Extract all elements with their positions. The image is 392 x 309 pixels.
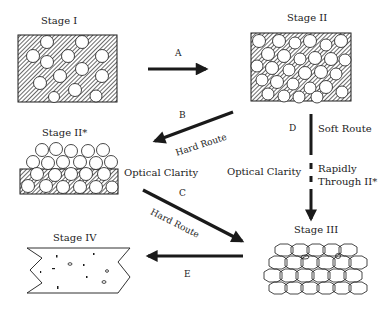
stage1-title: Stage I xyxy=(41,16,77,26)
optical-clarity-center: Optical Clarity xyxy=(227,167,301,177)
stage2-title: Stage II xyxy=(287,13,327,23)
stage4-title: Stage IV xyxy=(53,233,97,243)
arrow-e-label: E xyxy=(184,270,191,279)
stage4-film xyxy=(27,248,130,293)
stage1-box xyxy=(18,35,117,103)
arrow-d-note-line1: Rapidly xyxy=(318,164,357,174)
stage3-title: Stage III xyxy=(294,225,338,235)
stage3-hexgrid xyxy=(264,244,367,294)
stage2-box xyxy=(251,33,351,103)
arrow-c-label: C xyxy=(179,189,186,198)
arrow-d-route: Soft Route xyxy=(318,124,372,134)
arrow-a-label: A xyxy=(175,49,182,58)
optical-clarity-left: Optical Clarity xyxy=(124,168,198,178)
arrow-b-label: B xyxy=(179,111,186,120)
stage2star-box xyxy=(20,143,118,195)
arrow-d-note-line2: Through II* xyxy=(318,177,377,187)
arrow-d-label: D xyxy=(289,124,296,133)
stage2star-title: Stage II* xyxy=(42,128,87,138)
film-formation-diagram xyxy=(0,0,392,309)
